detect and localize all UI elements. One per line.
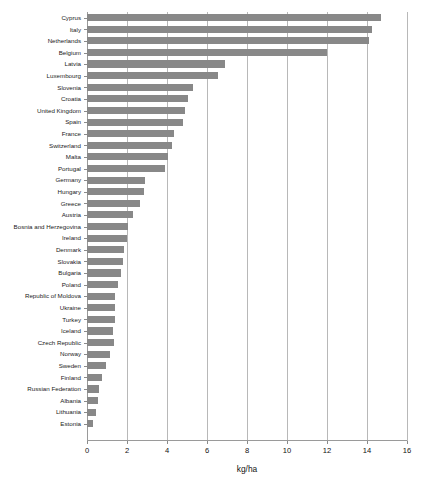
x-tick-label: 6 — [205, 446, 209, 455]
category-label: United Kingdom — [37, 105, 81, 117]
category-label: Lithuania — [56, 406, 81, 418]
category-label: Iceland — [61, 325, 81, 337]
axis-frame — [87, 12, 407, 441]
category-label: Republic of Moldova — [25, 290, 81, 302]
category-label: Bosnia and Herzegovina — [14, 221, 81, 233]
category-label: Denmark — [56, 244, 81, 256]
category-label: Latvia — [64, 58, 81, 70]
x-tick-label: 4 — [165, 446, 169, 455]
category-label: Sweden — [59, 360, 81, 372]
category-label: Slovakia — [58, 256, 81, 268]
gridline — [407, 12, 408, 441]
plot-area — [87, 12, 407, 441]
category-label: Croatia — [61, 93, 81, 105]
x-tick-label: 12 — [323, 446, 331, 455]
x-tick-label: 2 — [125, 446, 129, 455]
x-tick-mark — [407, 441, 408, 444]
x-tick-label: 16 — [403, 446, 411, 455]
x-tick-mark — [167, 441, 168, 444]
category-label: Estonia — [60, 418, 81, 430]
category-label: Ireland — [62, 232, 81, 244]
category-label: Germany — [56, 174, 81, 186]
x-tick-mark — [247, 441, 248, 444]
x-tick-label: 0 — [85, 446, 89, 455]
category-label: Portugal — [58, 163, 81, 175]
category-label: Austria — [62, 209, 81, 221]
category-label: Ukraine — [60, 302, 81, 314]
x-tick-mark — [127, 441, 128, 444]
category-label: Russian Federation — [27, 383, 81, 395]
category-label: Belgium — [59, 47, 81, 59]
x-tick-label: 8 — [245, 446, 249, 455]
x-axis: 0246810121416 — [87, 441, 407, 461]
category-label: Italy — [70, 24, 81, 36]
category-label: Switzerland — [49, 140, 81, 152]
category-label: Turkey — [62, 314, 81, 326]
category-label: Czech Republic — [38, 337, 81, 349]
x-tick-mark — [327, 441, 328, 444]
category-label: Spain — [65, 116, 81, 128]
category-label: Hungary — [58, 186, 81, 198]
category-axis-labels: CyprusItalyNetherlandsBelgiumLatviaLuxem… — [0, 12, 84, 441]
category-label: Luxembourg — [47, 70, 81, 82]
x-tick-mark — [367, 441, 368, 444]
category-label: Netherlands — [48, 35, 81, 47]
x-tick-mark — [207, 441, 208, 444]
category-label: Bulgaria — [58, 267, 81, 279]
category-label: Norway — [60, 348, 81, 360]
x-tick-label: 10 — [283, 446, 291, 455]
category-label: Greece — [61, 198, 81, 210]
category-label: Poland — [62, 279, 81, 291]
x-axis-title: kg/ha — [87, 464, 407, 474]
x-tick-mark — [87, 441, 88, 444]
category-label: Slovenia — [57, 82, 81, 94]
category-label: Finland — [61, 372, 81, 384]
category-label: France — [62, 128, 81, 140]
category-label: Albania — [60, 395, 81, 407]
category-label: Malta — [66, 151, 81, 163]
x-tick-mark — [287, 441, 288, 444]
x-tick-label: 14 — [363, 446, 371, 455]
category-label: Cyprus — [61, 12, 81, 24]
bar-chart: CyprusItalyNetherlandsBelgiumLatviaLuxem… — [0, 0, 421, 490]
